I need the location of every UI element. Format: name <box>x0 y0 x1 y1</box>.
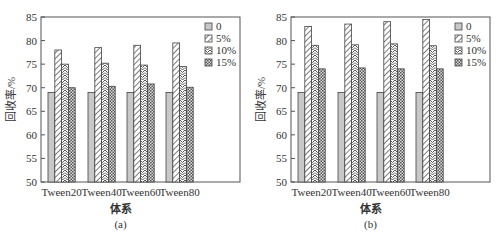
legend-label: 5% <box>216 32 231 44</box>
bar-tween20-15pct <box>318 69 325 182</box>
bar-tween20-5pct <box>55 50 62 182</box>
legend-label: 5% <box>466 32 481 44</box>
bar-tween20-5pct <box>305 26 312 182</box>
legend-swatch <box>205 47 212 54</box>
bar-tween40-10pct <box>352 45 359 182</box>
y-tick-label: 60 <box>26 129 38 141</box>
legend-swatch <box>455 47 462 54</box>
y-axis-label: 回收率/% <box>4 77 17 122</box>
chart-panel-a: 5055606570758085回收率/%Tween20Tween40Tween… <box>0 0 250 239</box>
bar-tween80-5pct <box>423 19 430 182</box>
panel-caption: (b) <box>364 218 377 231</box>
legend-label: 10% <box>216 44 236 56</box>
y-tick-label: 50 <box>276 176 288 188</box>
y-tick-label: 75 <box>276 58 288 70</box>
legend-swatch <box>205 35 212 42</box>
legend-swatch <box>455 35 462 42</box>
y-tick-label: 70 <box>276 82 288 94</box>
panel-caption: (a) <box>114 218 127 231</box>
y-axis-label: 回收率/% <box>254 77 267 122</box>
y-tick-label: 55 <box>26 152 38 164</box>
x-tick-label: Tween40 <box>332 186 373 198</box>
y-tick-label: 60 <box>276 129 288 141</box>
y-tick-label: 85 <box>26 11 38 23</box>
y-tick-label: 75 <box>26 58 38 70</box>
x-axis-label: 体系 <box>360 202 382 215</box>
y-tick-label: 65 <box>26 105 38 117</box>
bar-tween60-15pct <box>147 84 154 182</box>
bar-tween40-5pct <box>95 48 102 182</box>
bar-tween80-15pct <box>436 69 443 182</box>
x-tick-label: Tween60 <box>371 186 412 198</box>
bar-tween40-15pct <box>108 86 115 182</box>
bar-chart-b: 5055606570758085回收率/%Tween20Tween40Tween… <box>250 0 500 239</box>
bar-tween40-0 <box>338 92 345 182</box>
bar-tween40-15pct <box>358 68 365 182</box>
y-tick-label: 55 <box>276 152 288 164</box>
bar-tween80-15pct <box>186 87 193 182</box>
legend-label: 15% <box>466 56 486 68</box>
y-tick-label: 70 <box>26 82 38 94</box>
bar-tween20-15pct <box>68 88 75 182</box>
bar-tween60-15pct <box>397 69 404 182</box>
bar-tween60-10pct <box>391 44 398 182</box>
y-tick-label: 80 <box>26 35 38 47</box>
y-tick-label: 85 <box>276 11 288 23</box>
bar-tween60-10pct <box>141 65 148 182</box>
bar-tween60-0 <box>377 92 384 182</box>
bar-tween20-0 <box>48 92 55 182</box>
x-axis-label: 体系 <box>110 202 132 215</box>
legend-label: 0 <box>466 20 472 32</box>
bar-tween80-0 <box>166 92 173 182</box>
bar-chart-a: 5055606570758085回收率/%Tween20Tween40Tween… <box>0 0 250 239</box>
chart-panel-b: 5055606570758085回收率/%Tween20Tween40Tween… <box>250 0 500 239</box>
legend-swatch <box>205 59 212 66</box>
legend-label: 0 <box>216 20 222 32</box>
legend-label: 15% <box>216 56 236 68</box>
x-tick-label: Tween20 <box>42 186 83 198</box>
bar-tween60-0 <box>127 92 134 182</box>
x-tick-label: Tween80 <box>160 186 201 198</box>
bar-tween60-5pct <box>134 45 141 182</box>
bar-tween20-10pct <box>62 64 69 182</box>
bar-tween80-0 <box>416 92 423 182</box>
x-tick-label: Tween80 <box>410 186 451 198</box>
bar-tween40-0 <box>88 92 95 182</box>
y-tick-label: 80 <box>276 35 288 47</box>
bar-tween40-10pct <box>102 63 109 182</box>
bar-tween20-10pct <box>312 45 319 182</box>
bar-tween80-5pct <box>173 43 180 182</box>
x-tick-label: Tween40 <box>82 186 123 198</box>
legend-swatch <box>455 59 462 66</box>
bar-tween40-5pct <box>345 24 352 182</box>
legend-swatch <box>455 23 462 30</box>
bar-tween80-10pct <box>430 46 437 182</box>
y-tick-label: 50 <box>26 176 38 188</box>
legend-swatch <box>205 23 212 30</box>
bar-tween80-10pct <box>180 67 187 183</box>
legend-label: 10% <box>466 44 486 56</box>
x-tick-label: Tween20 <box>292 186 333 198</box>
bar-tween60-5pct <box>384 22 391 182</box>
bar-tween20-0 <box>298 92 305 182</box>
x-tick-label: Tween60 <box>121 186 162 198</box>
y-tick-label: 65 <box>276 105 288 117</box>
